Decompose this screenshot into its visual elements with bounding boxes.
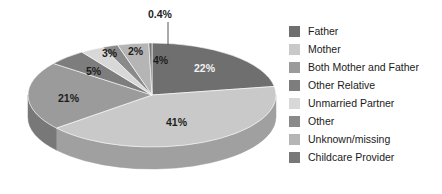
legend-swatch-icon-childcare-provider xyxy=(289,152,300,163)
legend-swatch-icon-father xyxy=(289,26,300,37)
legend-label-both-mother-and-father: Both Mother and Father xyxy=(308,62,419,73)
legend-swatch-icon-mother xyxy=(289,44,300,55)
legend-label-childcare-provider: Childcare Provider xyxy=(308,152,394,163)
legend-swatch-icon-unknown-missing xyxy=(289,134,300,145)
legend-item-unknown-missing[interactable]: Unknown/missing xyxy=(289,130,442,148)
legend: Father Mother Both Mother and Father Oth… xyxy=(289,22,442,174)
slice-label-both-mother-and-father: 21% xyxy=(58,93,79,104)
legend-item-father[interactable]: Father xyxy=(289,22,442,40)
pie-chart-plot-area: 22% 41% 21% 5% 3% 2% 4% 0.4% xyxy=(0,0,286,194)
legend-swatch-icon-unmarried-partner xyxy=(289,98,300,109)
legend-label-other: Other xyxy=(308,116,334,127)
legend-swatch-icon-both-mother-and-father xyxy=(289,62,300,73)
legend-item-other[interactable]: Other xyxy=(289,112,442,130)
pie-chart-screenshot: 22% 41% 21% 5% 3% 2% 4% 0.4% Father Moth… xyxy=(0,0,442,194)
slice-label-other: 2% xyxy=(128,46,143,57)
slice-label-mother: 41% xyxy=(166,117,187,128)
legend-label-unmarried-partner: Unmarried Partner xyxy=(308,98,394,109)
legend-item-childcare-provider[interactable]: Childcare Provider xyxy=(289,148,442,166)
slice-label-unmarried-partner: 3% xyxy=(102,48,117,59)
legend-swatch-icon-other-relative xyxy=(289,80,300,91)
legend-item-unmarried-partner[interactable]: Unmarried Partner xyxy=(289,94,442,112)
pie-chart-svg xyxy=(0,0,286,194)
slice-label-childcare-provider: 0.4% xyxy=(148,9,172,20)
slice-label-father: 22% xyxy=(194,63,215,74)
legend-item-other-relative[interactable]: Other Relative xyxy=(289,76,442,94)
slice-label-unknown-missing: 4% xyxy=(153,55,168,66)
legend-swatch-icon-other xyxy=(289,116,300,127)
legend-label-other-relative: Other Relative xyxy=(308,80,375,91)
legend-label-unknown-missing: Unknown/missing xyxy=(308,134,390,145)
legend-item-mother[interactable]: Mother xyxy=(289,40,442,58)
slice-label-other-relative: 5% xyxy=(86,66,101,77)
legend-label-father: Father xyxy=(308,26,338,37)
legend-label-mother: Mother xyxy=(308,44,341,55)
legend-item-both-mother-and-father[interactable]: Both Mother and Father xyxy=(289,58,442,76)
